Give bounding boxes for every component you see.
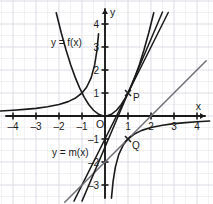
x-axis-tick-label: 2 — [148, 121, 154, 132]
point-label-q: Q — [132, 140, 140, 151]
point-label-p: P — [133, 92, 140, 103]
x-axis-tick-label: –2 — [53, 121, 65, 132]
y-axis-tick-label: –1 — [88, 134, 100, 145]
coordinate-plane: –4–3–2–112344321–1–2–3xyOPQy = f(x)y = m… — [0, 0, 213, 204]
x-axis-tick-label: 3 — [171, 121, 177, 132]
origin-label: O — [96, 118, 104, 130]
graph-figure: –4–3–2–112344321–1–2–3xyOPQy = f(x)y = m… — [0, 0, 213, 204]
y-axis-tick-label: 4 — [93, 19, 99, 30]
curve-f-annotation: y = f(x) — [51, 37, 82, 48]
x-axis-label: x — [196, 100, 202, 112]
curve-m-annotation: y = m(x) — [52, 147, 88, 158]
x-axis-tick-label: –1 — [76, 121, 88, 132]
y-axis-label: y — [110, 6, 116, 18]
x-axis-tick-label: –3 — [30, 121, 42, 132]
x-axis-tick-label: 1 — [125, 121, 131, 132]
y-axis-tick-label: 1 — [93, 88, 99, 99]
x-axis-tick-label: –4 — [7, 121, 19, 132]
